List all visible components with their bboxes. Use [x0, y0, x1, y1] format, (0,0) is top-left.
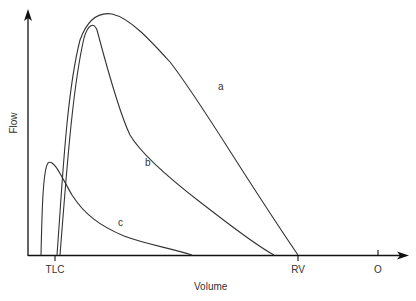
curve-label-c: c	[118, 218, 123, 228]
tick-label-tlc: TLC	[46, 265, 65, 275]
flow-volume-chart	[0, 0, 416, 301]
curve-b	[60, 25, 274, 255]
curve-label-b: b	[145, 158, 151, 168]
x-axis-label: Volume	[194, 282, 227, 292]
tick-label-o: O	[374, 265, 382, 275]
curve-label-a: a	[218, 82, 224, 92]
y-axis-label: Flow	[9, 112, 19, 133]
tick-label-rv: RV	[291, 265, 305, 275]
